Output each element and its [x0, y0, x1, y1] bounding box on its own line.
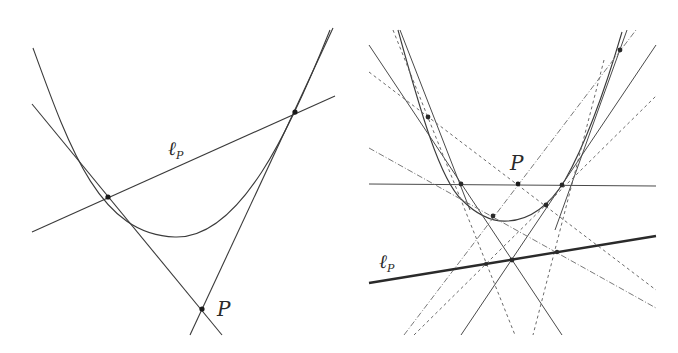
right-dashed-line-4	[533, 60, 604, 335]
right-horizontal-line	[369, 184, 656, 186]
left-polar-line-label: ℓP	[168, 137, 184, 162]
right-dashdot-line-2	[404, 30, 636, 335]
right-dashed-line-2	[393, 30, 515, 335]
left-point-p	[199, 306, 204, 311]
left-tangency-point-1	[105, 194, 110, 199]
left-point-p-label: P	[216, 297, 231, 321]
right-panel: P ℓP	[369, 30, 656, 335]
right-polar-line-label: ℓP	[379, 250, 395, 275]
diagram-canvas: ℓP P P ℓP	[0, 0, 678, 353]
right-point-4	[491, 214, 496, 219]
left-parabola	[33, 30, 330, 237]
right-dashed-line-3	[414, 96, 656, 335]
figure: ℓP P P ℓP	[0, 0, 678, 353]
right-point-p	[516, 182, 521, 187]
right-point-p-label: P	[509, 151, 524, 175]
right-point-1	[426, 115, 431, 120]
right-point-9	[484, 262, 488, 266]
right-solid-line-2	[461, 45, 656, 335]
right-solid-line-1	[369, 45, 562, 335]
right-point-2	[459, 182, 464, 187]
right-point-5	[544, 203, 549, 208]
right-point-7	[510, 258, 515, 263]
left-tangent-line-2	[190, 28, 333, 335]
left-panel: ℓP P	[32, 28, 335, 335]
left-tangency-point-2	[292, 109, 297, 114]
right-point-6	[618, 48, 623, 53]
left-polar-line	[32, 96, 335, 232]
right-dashed-line-1	[369, 72, 656, 290]
right-solid-line-4	[555, 30, 627, 230]
right-point-8	[555, 250, 559, 254]
right-point-3	[560, 183, 565, 188]
